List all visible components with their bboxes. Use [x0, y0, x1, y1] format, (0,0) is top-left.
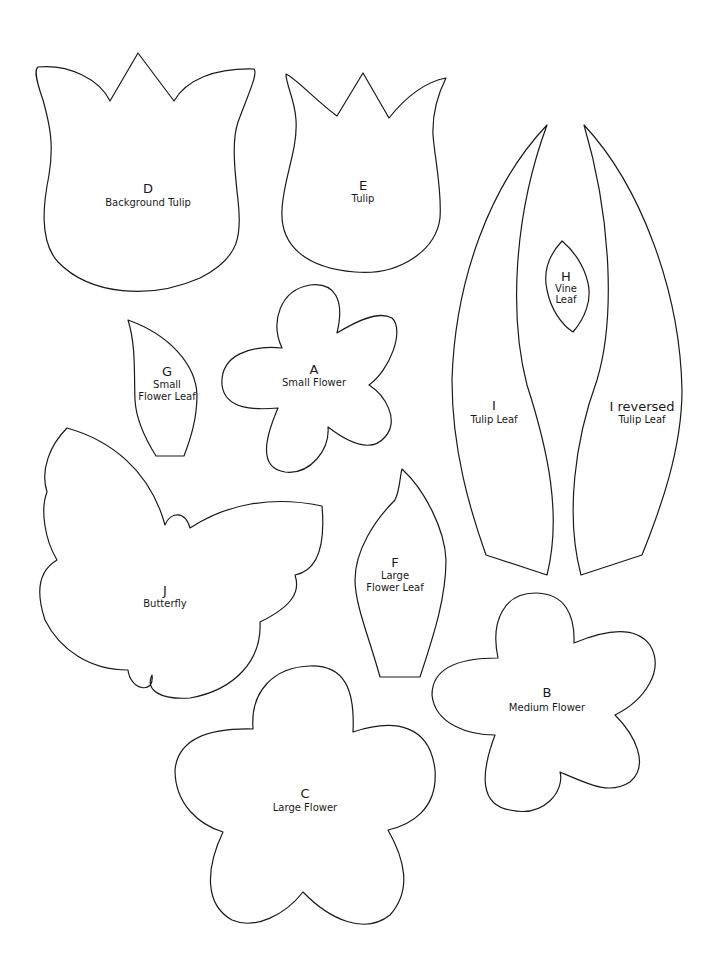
template-g-name-line1: Small: [153, 379, 181, 390]
template-h-name-line2: Leaf: [555, 294, 577, 305]
template-a-name: Small Flower: [282, 377, 347, 388]
template-e-name: Tulip: [351, 193, 375, 204]
template-h-name-line1: Vine: [555, 283, 577, 294]
template-e-tulip: E Tulip: [282, 73, 446, 272]
background-tulip-outline: [36, 53, 255, 291]
template-d-background-tulip: D Background Tulip: [36, 53, 255, 291]
template-f-large-flower-leaf: F Large Flower Leaf: [355, 469, 446, 677]
tulip-leaf-outline: [452, 125, 553, 575]
template-f-name-line1: Large: [381, 570, 409, 581]
template-a-letter: A: [310, 362, 319, 377]
template-e-letter: E: [359, 178, 367, 193]
template-f-letter: F: [391, 555, 398, 570]
template-sheet: D Background Tulip E Tulip I Tulip Leaf …: [0, 0, 710, 974]
template-c-letter: C: [300, 786, 309, 801]
template-g-name-line2: Flower Leaf: [138, 391, 196, 402]
template-i-reversed-letter: I reversed: [609, 399, 674, 414]
template-i-reversed-name: Tulip Leaf: [617, 414, 666, 425]
template-c-name: Large Flower: [273, 802, 338, 813]
template-h-vine-leaf: H Vine Leaf: [546, 241, 589, 332]
template-i-letter: I: [492, 398, 496, 413]
template-j-letter: J: [162, 583, 167, 598]
template-c-large-flower: C Large Flower: [175, 666, 435, 924]
template-d-letter: D: [143, 181, 153, 196]
template-a-small-flower: A Small Flower: [222, 285, 397, 473]
template-b-medium-flower: B Medium Flower: [432, 593, 655, 811]
template-g-small-flower-leaf: G Small Flower Leaf: [128, 320, 197, 456]
template-h-letter: H: [561, 269, 571, 284]
template-i-tulip-leaf: I Tulip Leaf: [452, 125, 553, 575]
tulip-outline: [282, 73, 446, 272]
template-i-reversed-tulip-leaf: I reversed Tulip Leaf: [573, 125, 682, 575]
template-g-letter: G: [162, 364, 172, 379]
tulip-leaf-reversed-outline: [573, 125, 682, 575]
template-i-name: Tulip Leaf: [469, 414, 518, 425]
template-b-name: Medium Flower: [509, 702, 586, 713]
template-j-name: Butterfly: [143, 598, 187, 609]
template-b-letter: B: [543, 685, 552, 700]
template-f-name-line2: Flower Leaf: [366, 582, 424, 593]
template-d-name: Background Tulip: [105, 197, 191, 208]
